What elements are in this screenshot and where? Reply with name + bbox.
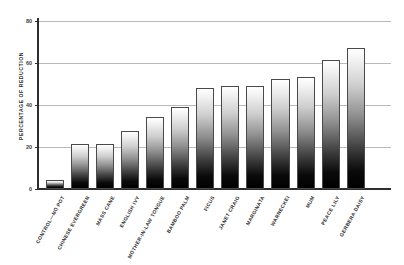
x-label-0: CONTROL—NO POT bbox=[34, 194, 65, 244]
x-axis-category-labels: CONTROL—NO POTCHINESE EVERGREENMASS CANE… bbox=[0, 0, 404, 265]
x-label-5: BAMBOO PALM bbox=[165, 194, 191, 233]
bar-chart: PERCENTAGE OF REDUCTION 020406080 CONTRO… bbox=[0, 0, 404, 265]
x-label-11: PEACE LILY bbox=[320, 194, 341, 225]
x-label-12: GERBERA DAISY bbox=[338, 194, 366, 237]
x-label-8: MARGINATA bbox=[244, 194, 265, 226]
x-label-10: MUM bbox=[304, 194, 316, 208]
x-label-7: JANET CRAIG bbox=[217, 194, 241, 230]
x-label-2: MASS CANE bbox=[94, 194, 115, 226]
x-label-9: WARNECKEI bbox=[269, 194, 291, 226]
x-label-3: ENGLISH IVY bbox=[118, 194, 140, 228]
x-label-6: FICUS bbox=[202, 194, 215, 212]
